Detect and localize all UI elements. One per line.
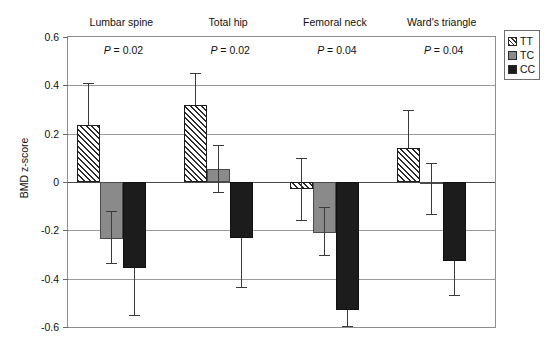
- p-value-2: P = 0.02: [210, 44, 249, 56]
- gray-swatch-icon: [508, 51, 517, 60]
- error-bar-cap: [213, 145, 224, 146]
- error-bar-tc-4: [420, 163, 443, 215]
- p-value-1: P = 0.02: [104, 44, 143, 56]
- error-bar-tt-3: [290, 158, 313, 221]
- y-tick-label: 0: [53, 176, 59, 188]
- gridline: [68, 134, 495, 135]
- error-bar-cap: [449, 295, 460, 296]
- error-bar-cap: [236, 287, 247, 288]
- legend-item-cc[interactable]: CC: [508, 62, 535, 76]
- error-bar-stem: [431, 163, 432, 215]
- error-bar-cap: [342, 326, 353, 327]
- error-bar-cap: [213, 192, 224, 193]
- y-tick-label: -0.4: [41, 273, 59, 285]
- error-bar-tc-1: [100, 211, 123, 264]
- error-bar-cap: [296, 158, 307, 159]
- error-bar-cap: [426, 214, 437, 215]
- plot-inner: 0.60.40.20-0.2-0.4-0.6Lumbar spineP = 0.…: [68, 37, 495, 327]
- error-bar-cc-4: [443, 261, 466, 296]
- bar-cc-4: [443, 182, 466, 261]
- hatched-swatch-icon: [508, 37, 517, 46]
- y-tick-label: -0.2: [41, 224, 59, 236]
- error-bar-cc-3: [336, 310, 359, 327]
- error-bar-cap: [319, 255, 330, 256]
- error-bar-tt-4: [397, 110, 420, 149]
- y-tick-mark: [63, 182, 68, 183]
- group-title-2: Total hip: [209, 16, 248, 28]
- y-tick-mark: [63, 279, 68, 280]
- p-value-3: P = 0.04: [317, 44, 356, 56]
- error-bar-tc-2: [207, 145, 230, 193]
- group-title-3: Femoral neck: [303, 16, 367, 28]
- y-tick-mark: [63, 134, 68, 135]
- error-bar-cap: [106, 263, 117, 264]
- y-tick-label: 0.2: [44, 128, 59, 140]
- bar-tt-4: [397, 148, 420, 182]
- error-bar-cap: [403, 110, 414, 111]
- error-bar-stem: [195, 73, 196, 104]
- bar-cc-1: [123, 182, 146, 268]
- error-bar-stem: [454, 261, 455, 296]
- p-value-4: P = 0.04: [424, 44, 463, 56]
- bar-cc-3: [336, 182, 359, 310]
- error-bar-stem: [347, 310, 348, 327]
- legend-item-tc[interactable]: TC: [508, 48, 535, 62]
- y-tick-mark: [63, 85, 68, 86]
- error-bar-cap: [106, 211, 117, 212]
- gridline: [68, 85, 495, 86]
- error-bar-cc-2: [230, 238, 253, 289]
- black-swatch-icon: [508, 65, 517, 74]
- chart-legend: TTTCCC: [504, 30, 540, 80]
- error-bar-stem: [218, 145, 219, 193]
- bar-cc-2: [230, 182, 253, 238]
- error-bar-cap: [319, 207, 330, 208]
- error-bar-cc-1: [123, 268, 146, 316]
- y-tick-mark: [63, 37, 68, 38]
- error-bar-stem: [241, 238, 242, 289]
- legend-item-tt[interactable]: TT: [508, 34, 535, 48]
- plot-area: 0.60.40.20-0.2-0.4-0.6Lumbar spineP = 0.…: [67, 36, 496, 328]
- y-tick-mark: [63, 230, 68, 231]
- error-bar-cap: [83, 83, 94, 84]
- error-bar-stem: [111, 211, 112, 264]
- chart-figure: BMD z-score 0.60.40.20-0.2-0.4-0.6Lumbar…: [0, 0, 555, 348]
- group-title-1: Lumbar spine: [90, 16, 154, 28]
- error-bar-cap: [129, 315, 140, 316]
- y-tick-mark: [63, 327, 68, 328]
- bar-tt-1: [77, 125, 100, 182]
- error-bar-tc-3: [313, 207, 336, 255]
- bar-tt-2: [184, 105, 207, 182]
- legend-item-label: CC: [520, 63, 535, 75]
- error-bar-stem: [301, 158, 302, 221]
- group-title-4: Ward's triangle: [407, 16, 476, 28]
- error-bar-stem: [88, 83, 89, 125]
- error-bar-tt-2: [184, 73, 207, 104]
- legend-item-label: TC: [520, 49, 534, 61]
- error-bar-cap: [190, 73, 201, 74]
- legend-item-label: TT: [520, 35, 533, 47]
- error-bar-tt-1: [77, 83, 100, 125]
- error-bar-stem: [134, 268, 135, 316]
- y-tick-label: 0.6: [44, 31, 59, 43]
- y-axis-label: BMD z-score: [18, 98, 30, 238]
- error-bar-cap: [426, 163, 437, 164]
- error-bar-stem: [408, 110, 409, 149]
- y-tick-label: -0.6: [41, 321, 59, 333]
- y-tick-label: 0.4: [44, 79, 59, 91]
- error-bar-stem: [324, 207, 325, 255]
- error-bar-cap: [296, 220, 307, 221]
